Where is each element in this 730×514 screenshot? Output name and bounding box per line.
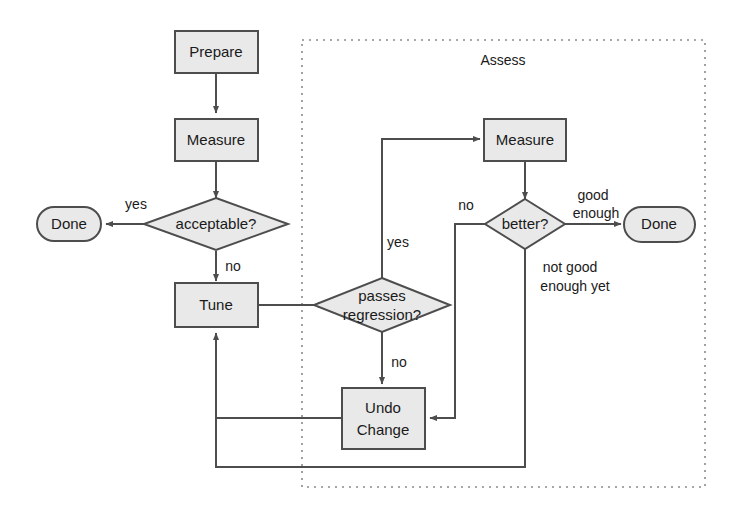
edge-label-better-good-enough-line2: enough (573, 205, 620, 221)
flowchart-canvas: Assess Prepare Measure (0, 0, 730, 514)
node-passes-regression-label-line2: regression? (343, 306, 421, 323)
edge-better-no-to-undo (430, 224, 487, 418)
edge-label-better-no: no (458, 197, 474, 213)
assess-group-label: Assess (480, 52, 525, 68)
edge-label-better-not-good-line2: enough yet (540, 278, 609, 294)
node-undo-change-label-line1: Undo (365, 399, 401, 416)
node-passes-regression-label-line1: passes (358, 287, 406, 304)
edge-label-acceptable-no: no (225, 258, 241, 274)
node-undo-change[interactable] (342, 388, 425, 449)
edge-label-better-good-enough-line1: good (577, 187, 608, 203)
edge-label-regression-no: no (391, 354, 407, 370)
node-done-right-label: Done (641, 215, 677, 232)
edge-label-better-not-good-line1: not good (543, 259, 598, 275)
node-measure-left-label: Measure (187, 131, 245, 148)
edge-label-regression-yes: yes (387, 234, 409, 250)
node-undo-change-label-line2: Change (357, 421, 410, 438)
flowchart-diagram: Assess Prepare Measure (0, 0, 730, 514)
node-acceptable-label: acceptable? (176, 215, 257, 232)
node-tune-label: Tune (199, 296, 233, 313)
node-measure-right-label: Measure (496, 131, 554, 148)
edge-label-acceptable-yes: yes (125, 196, 147, 212)
node-better-label: better? (502, 215, 549, 232)
node-prepare-label: Prepare (189, 43, 242, 60)
node-done-left-label: Done (51, 215, 87, 232)
